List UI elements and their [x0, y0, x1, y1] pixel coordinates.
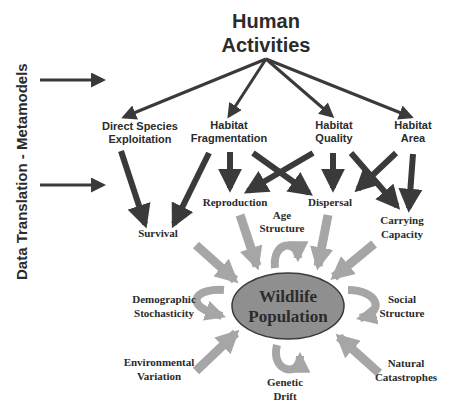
svg-text:Catastrophes: Catastrophes: [375, 371, 438, 383]
vital-rate-survival: Survival: [138, 227, 178, 239]
svg-text:Exploitation: Exploitation: [109, 133, 172, 145]
svg-text:Genetic: Genetic: [267, 376, 303, 388]
svg-text:Habitat: Habitat: [394, 119, 432, 131]
svg-text:Stochasticity: Stochasticity: [134, 307, 194, 319]
svg-text:Natural: Natural: [388, 357, 425, 369]
svg-text:Habitat: Habitat: [210, 119, 248, 131]
side-label: Data Translation - Metamodels: [13, 63, 30, 280]
driver-habitat-fragmentation: Habitat Fragmentation: [191, 119, 268, 144]
factor-demographic-stochasticity: Demographic Stochasticity: [132, 293, 196, 319]
svg-text:Structure: Structure: [379, 307, 424, 319]
factor-natural-catastrophes: Natural Catastrophes: [375, 357, 438, 383]
svg-text:Area: Area: [401, 132, 426, 144]
svg-text:Social: Social: [388, 293, 416, 305]
svg-text:Age: Age: [273, 209, 291, 221]
factor-genetic-drift: Genetic Drift: [267, 376, 303, 402]
vital-rate-carrying-capacity: Carrying Capacity: [380, 214, 424, 240]
factor-social-structure: Social Structure: [379, 293, 424, 319]
svg-text:Carrying: Carrying: [380, 214, 424, 226]
wildlife-population-node: [232, 273, 344, 339]
factor-age-structure: Age Structure: [259, 209, 304, 234]
svg-text:Structure: Structure: [259, 222, 304, 234]
svg-text:Demographic: Demographic: [132, 293, 196, 305]
driver-direct-exploitation: Direct Species Exploitation: [102, 120, 178, 145]
svg-text:Direct Species: Direct Species: [102, 120, 178, 132]
root-arrows: [124, 59, 411, 117]
root-label-line2: Activities: [222, 34, 311, 56]
factor-environmental-variation: Environmental Variation: [124, 356, 195, 382]
svg-text:Quality: Quality: [315, 132, 353, 144]
root-label-line1: Human: [232, 10, 300, 32]
svg-text:Drift: Drift: [273, 390, 297, 402]
svg-text:Habitat: Habitat: [315, 119, 353, 131]
center-label-line2: Population: [248, 307, 328, 326]
svg-text:Capacity: Capacity: [381, 228, 424, 240]
svg-text:Variation: Variation: [137, 370, 181, 382]
driver-habitat-quality: Habitat Quality: [315, 119, 353, 144]
svg-text:Fragmentation: Fragmentation: [191, 132, 268, 144]
wildlife-population-diagram: Data Translation - Metamodels Human Acti…: [0, 0, 453, 414]
center-label-line1: Wildlife: [259, 287, 318, 306]
vital-rate-reproduction: Reproduction: [203, 196, 268, 208]
vital-rate-dispersal: Dispersal: [308, 196, 352, 208]
svg-text:Environmental: Environmental: [124, 356, 195, 368]
driver-habitat-area: Habitat Area: [394, 119, 432, 144]
driver-arrows: [121, 151, 413, 224]
